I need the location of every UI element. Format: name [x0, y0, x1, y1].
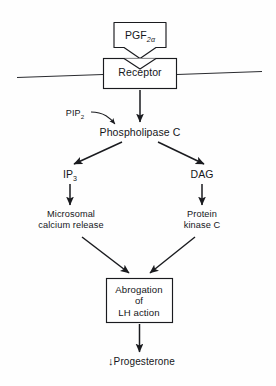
signaling-pathway-diagram: PGF2α Receptor PIP2 Phospholipase C IP3 …	[0, 0, 276, 386]
node-microsomal-calcium-release: Microsomal calcium release	[28, 209, 114, 231]
node-protein-kinase-c: Protein kinase C	[172, 209, 232, 231]
pip2-label-main: PIP	[66, 108, 81, 118]
node-phospholipase-c: Phospholipase C	[88, 126, 192, 138]
node-pip2: PIP2	[58, 108, 92, 119]
pkc-line-1: Protein	[172, 209, 232, 220]
ligand-label-main: PGF	[125, 29, 147, 41]
microsomal-line-1: Microsomal	[28, 209, 114, 220]
node-abrogation-lh-action: Abrogation of LH action	[106, 284, 172, 318]
cell-membrane-left	[17, 75, 103, 78]
abrogation-line-1: Abrogation	[106, 284, 172, 295]
cell-membrane-right	[177, 72, 262, 75]
ip3-label-main: IP	[63, 168, 73, 180]
edge-plc-to-ip3	[74, 142, 122, 164]
abrogation-line-3: LH action	[106, 307, 172, 318]
abrogation-line-2: of	[106, 295, 172, 306]
pip2-label-subscript: 2	[81, 113, 85, 120]
node-receptor: Receptor	[103, 66, 177, 78]
edge-plc-to-dag	[158, 142, 204, 164]
pkc-line-2: kinase C	[172, 220, 232, 231]
node-ligand-pgf2alpha: PGF2α	[113, 29, 167, 41]
diagram-canvas	[0, 0, 276, 386]
edge-pip2-to-plc	[91, 112, 115, 124]
ligand-label-subscript: 2α	[147, 36, 155, 44]
edge-pkc-to-abrogation	[150, 237, 195, 273]
node-dag: DAG	[185, 168, 219, 180]
microsomal-line-2: calcium release	[28, 220, 114, 231]
node-progesterone: ↓Progesterone	[108, 355, 198, 368]
ip3-label-subscript: 3	[73, 175, 77, 183]
node-ip3: IP3	[55, 168, 85, 180]
progesterone-label: Progesterone	[114, 356, 175, 367]
edge-microsomal-to-abrogation	[82, 237, 129, 273]
